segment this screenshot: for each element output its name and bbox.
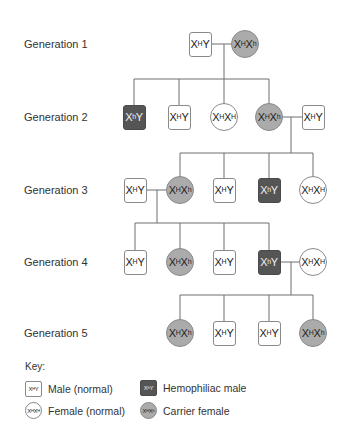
allele-superscript: H (320, 258, 325, 265)
allele-superscript: H (176, 329, 181, 336)
allele-base: X (191, 38, 198, 50)
normal-female-symbol: XHXH (299, 248, 327, 276)
allele-superscript: h (277, 113, 281, 120)
normal-male-symbol: XHY (213, 250, 236, 275)
allele-base: X (270, 111, 277, 123)
allele-base: X (304, 111, 311, 123)
allele-base: X (260, 184, 267, 196)
allele-superscript: H (222, 186, 227, 193)
allele-base: X (169, 184, 176, 196)
carrier-female-symbol: XHXh (166, 248, 194, 276)
carrier-female-symbol: XHXh (255, 103, 283, 131)
allele-superscript: H (133, 258, 138, 265)
normal-male-symbol: XHY (302, 105, 325, 130)
allele-base: X (215, 256, 222, 268)
key-label: Female (normal) (48, 405, 125, 417)
allele-superscript: h (132, 113, 136, 120)
allele-base: X (234, 38, 241, 50)
hemophiliac-male-symbol: XhY (258, 250, 281, 275)
allele-base: X (260, 256, 267, 268)
allele-superscript: H (311, 113, 316, 120)
allele-base: Y (315, 111, 322, 123)
key-label: Hemophiliac male (163, 382, 246, 394)
normal-female-symbol: XHXH (299, 176, 327, 204)
allele-superscript: H (176, 258, 181, 265)
allele-superscript: h (188, 329, 192, 336)
allele-base: X (169, 327, 176, 339)
allele-base: X (215, 184, 222, 196)
allele-base: X (258, 111, 265, 123)
normal-male-symbol: XHY (189, 32, 212, 57)
normal-male-symbol: XHY (124, 178, 147, 203)
carrier-female-symbol: XHXh (166, 319, 194, 347)
allele-superscript: H (37, 409, 40, 413)
allele-base: X (314, 327, 321, 339)
allele-superscript: H (198, 40, 203, 47)
allele-base: Y (137, 184, 144, 196)
key-label: Carrier female (163, 405, 230, 417)
allele-superscript: h (321, 329, 325, 336)
normal-female-key-icon: XHXH (25, 402, 42, 419)
allele-superscript: H (308, 186, 313, 193)
normal-male-symbol: XHY (124, 250, 147, 275)
hemophiliac-male-symbol: XhY (123, 105, 146, 130)
allele-superscript: H (177, 113, 182, 120)
allele-superscript: H (222, 329, 227, 336)
allele-base: X (313, 184, 320, 196)
normal-male-symbol: XHY (213, 178, 236, 203)
allele-base: X (313, 256, 320, 268)
allele-base: X (212, 111, 219, 123)
allele-base: X (126, 256, 133, 268)
allele-base: X (169, 256, 176, 268)
allele-superscript: H (267, 329, 272, 336)
allele-superscript: h (188, 258, 192, 265)
allele-superscript: h (267, 258, 271, 265)
generation-label-5: Generation 5 (24, 327, 88, 339)
pedigree-lines (0, 0, 346, 443)
allele-superscript: h (253, 40, 257, 47)
allele-base: X (181, 327, 188, 339)
allele-superscript: H (176, 186, 181, 193)
key-item-hemophiliac-male: XhYHemophiliac male (140, 380, 246, 396)
allele-base: X (170, 111, 177, 123)
key-title: Key: (25, 361, 45, 372)
allele-base: Y (226, 327, 233, 339)
allele-superscript: H (309, 329, 314, 336)
allele-base: Y (137, 256, 144, 268)
carrier-female-symbol: XHXh (299, 319, 327, 347)
carrier-female-symbol: XHXh (166, 176, 194, 204)
allele-base: X (301, 184, 308, 196)
allele-base: X (301, 256, 308, 268)
allele-superscript: H (231, 113, 236, 120)
carrier-female-key-icon: XHXh (140, 402, 157, 419)
generation-label-1: Generation 1 (24, 38, 88, 50)
allele-base: Y (136, 111, 143, 123)
allele-base: X (302, 327, 309, 339)
normal-male-symbol: XHY (213, 321, 236, 346)
carrier-female-symbol: XHXh (231, 30, 259, 58)
allele-superscript: H (265, 113, 270, 120)
allele-base: Y (271, 256, 278, 268)
allele-base: Y (202, 38, 209, 50)
normal-male-symbol: XHY (168, 105, 191, 130)
generation-label-3: Generation 3 (24, 184, 88, 196)
allele-base: X (246, 38, 253, 50)
allele-base: Y (271, 184, 278, 196)
key-label: Male (normal) (48, 383, 113, 395)
allele-superscript: H (219, 113, 224, 120)
allele-base: Y (35, 386, 39, 392)
allele-base: Y (271, 327, 278, 339)
allele-superscript: H (222, 258, 227, 265)
key-item-carrier-female: XHXhCarrier female (140, 402, 230, 419)
normal-male-symbol: XHY (258, 321, 281, 346)
key-item-normal-female: XHXHFemale (normal) (25, 402, 125, 419)
allele-base: X (125, 111, 132, 123)
allele-superscript: H (133, 186, 138, 193)
allele-superscript: h (188, 186, 192, 193)
allele-base: Y (226, 256, 233, 268)
allele-base: X (126, 184, 133, 196)
generation-label-4: Generation 4 (24, 256, 88, 268)
allele-base: Y (181, 111, 188, 123)
allele-base: Y (149, 385, 153, 391)
normal-male-key-icon: XHY (25, 381, 42, 397)
